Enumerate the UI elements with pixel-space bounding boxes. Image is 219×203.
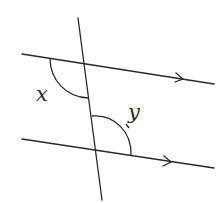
transversal-line [78,18,102,200]
parallel-lines-diagram: x y [0,0,219,203]
angle-y-arc [92,116,131,155]
angle-y-pointer [126,124,129,128]
parallel-line-bottom [22,139,214,168]
angle-x-label: x [36,82,48,106]
angle-y-label: y [127,100,141,124]
